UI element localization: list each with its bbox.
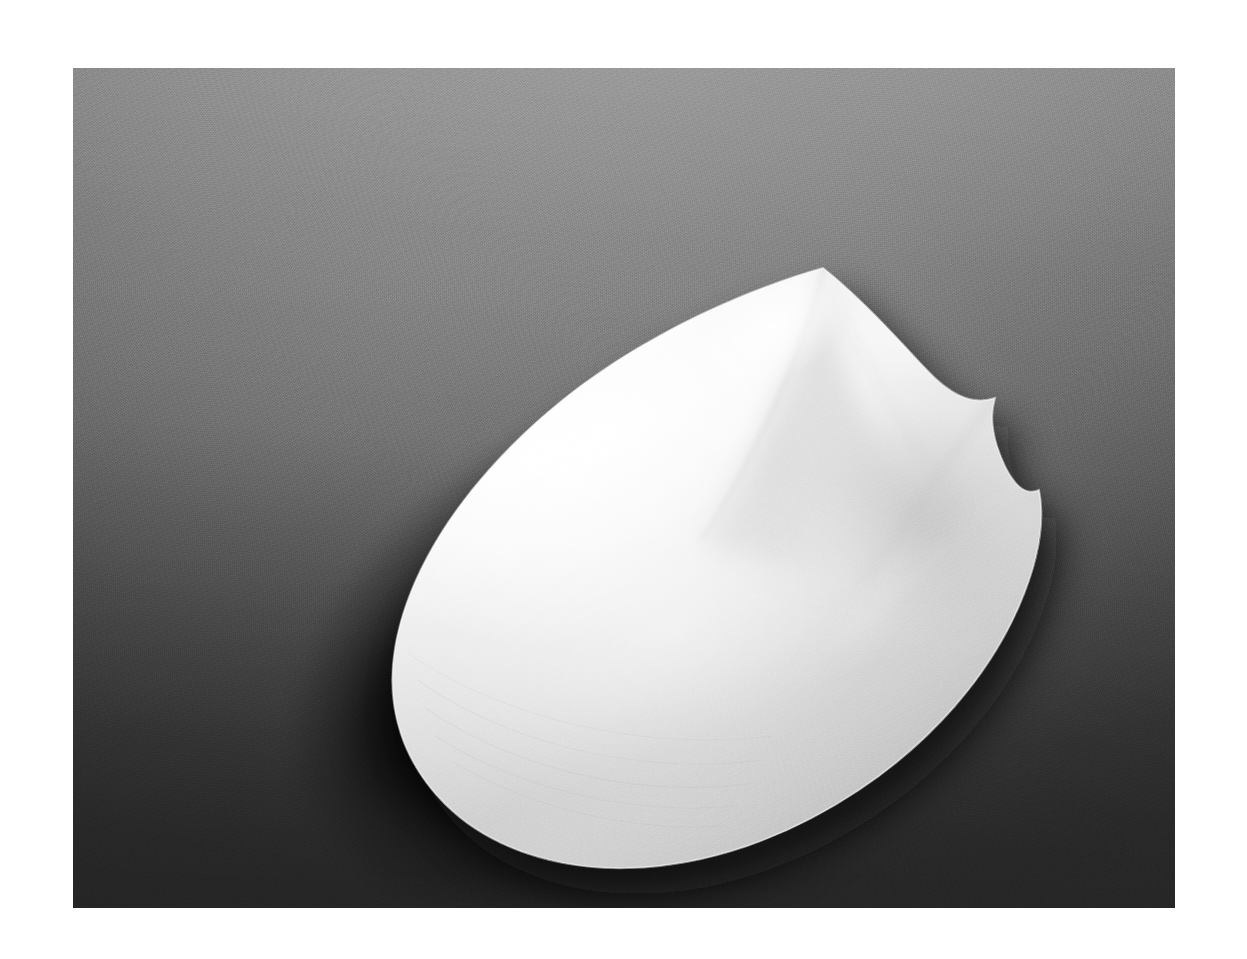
photograph-plate <box>73 68 1175 908</box>
sculpture-object <box>73 68 1175 908</box>
photo-mount: Black and white photograph of a smooth w… <box>0 0 1247 959</box>
sculpture-shading <box>73 68 1175 908</box>
image-alt-text: Black and white photograph of a smooth w… <box>0 16 1 17</box>
